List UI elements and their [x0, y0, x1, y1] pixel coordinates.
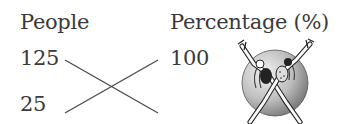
- dancers-illustration-icon: [228, 38, 318, 124]
